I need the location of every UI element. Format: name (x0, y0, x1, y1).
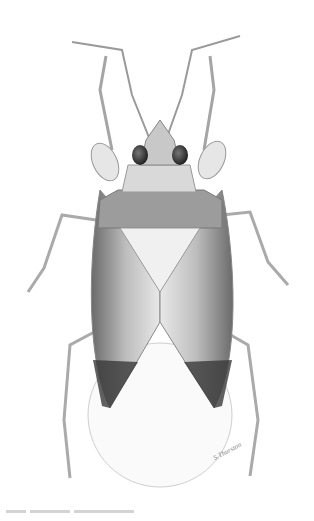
insect-illustration (0, 0, 314, 521)
left-eye (132, 145, 148, 165)
right-eye (172, 145, 188, 165)
caption-faint (6, 510, 156, 514)
collar (122, 165, 196, 192)
pronotum (98, 190, 222, 228)
